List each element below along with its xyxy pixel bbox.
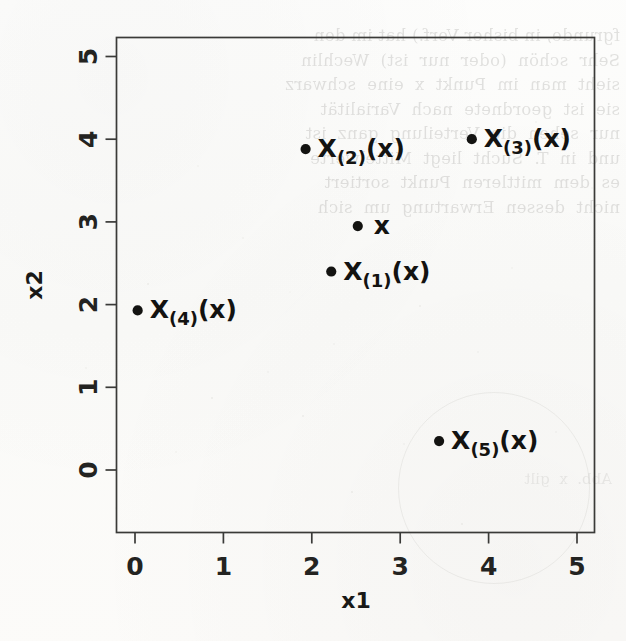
data-point-query: x: [353, 211, 390, 240]
x-tick-label: 4: [480, 552, 497, 581]
x-tick-label: 1: [215, 552, 232, 581]
y-tick-label: 3: [74, 213, 103, 230]
point-marker: [467, 134, 477, 144]
data-point: X(4)(x): [133, 295, 237, 329]
x-tick-label: 3: [391, 552, 408, 581]
y-axis-title: x2: [22, 270, 47, 300]
x-tick-label: 0: [126, 552, 143, 581]
point-marker: [434, 436, 444, 446]
point-marker: [353, 221, 363, 231]
point-label: X(1)(x): [343, 257, 430, 291]
y-tick-label: 1: [74, 379, 103, 396]
data-point-group: xX(1)(x)X(2)(x)X(3)(x)X(4)(x)X(5)(x): [133, 124, 572, 460]
point-label: X(5)(x): [451, 426, 538, 460]
y-tick-label: 5: [74, 48, 103, 65]
point-label: X(2)(x): [318, 134, 405, 168]
y-tick-label: 2: [74, 296, 103, 313]
point-marker: [301, 144, 311, 154]
point-label: X(3)(x): [484, 124, 571, 158]
data-point: X(3)(x): [467, 124, 571, 158]
point-label: X(4)(x): [150, 295, 237, 329]
point-marker: [133, 305, 143, 315]
x-axis-title: x1: [341, 588, 371, 613]
data-point: X(2)(x): [301, 134, 405, 168]
x-tick-label: 2: [303, 552, 320, 581]
y-axis-ticks: 012345: [74, 48, 117, 479]
x-axis-ticks: 012345: [126, 533, 585, 581]
plot-canvas: 012345 012345 xX(1)(x)X(2)(x)X(3)(x)X(4)…: [0, 0, 626, 641]
y-tick-label: 4: [74, 130, 103, 147]
scatter-plot-figure: 012345 012345 xX(1)(x)X(2)(x)X(3)(x)X(4)…: [0, 0, 626, 641]
y-tick-label: 0: [74, 461, 103, 478]
point-label: x: [374, 211, 390, 240]
point-marker: [326, 266, 336, 276]
x-tick-label: 5: [568, 552, 585, 581]
data-point: X(1)(x): [326, 257, 430, 291]
data-point: X(5)(x): [434, 426, 538, 460]
